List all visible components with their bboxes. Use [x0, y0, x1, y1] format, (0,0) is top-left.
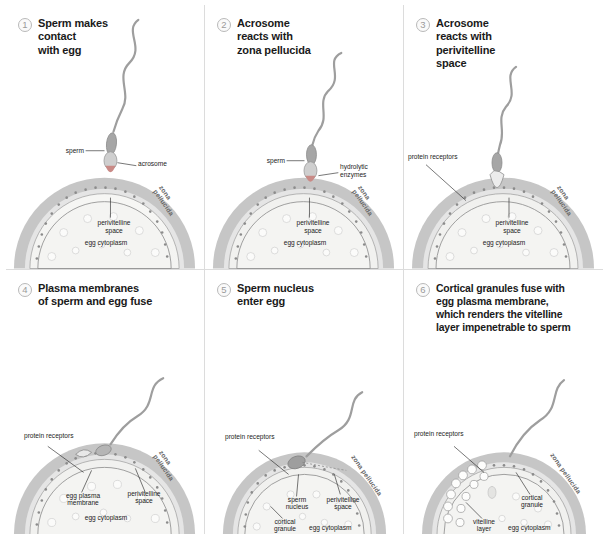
label-protein-receptors: protein receptors [24, 432, 98, 440]
panel-2-illustration: sperm hydrolytic enzymes zona pellucida … [205, 5, 403, 269]
sperm-figure [104, 20, 138, 172]
label-egg-cytoplasm: egg cytoplasm [68, 514, 144, 522]
label-egg-cytoplasm: egg cytoplasm [267, 239, 343, 247]
sperm-figure [490, 67, 516, 188]
label-sperm: sperm [245, 157, 285, 165]
label-protein-receptors: protein receptors [408, 153, 482, 161]
panel-step-2: 2 Acrosome reacts with zona pellucida [205, 5, 404, 270]
label-protein-receptors: protein receptors [414, 430, 488, 438]
panel-step-1: 1 Sperm makes contact with egg [6, 5, 205, 270]
label-sperm-nucleus: sperm nucleus [273, 496, 321, 511]
label-perivitelline-space: perivitelline space [287, 219, 339, 234]
fertilization-diagram: 1 Sperm makes contact with egg [0, 0, 609, 539]
label-hydrolytic-enzymes: hydrolytic enzymes [340, 163, 396, 178]
panel-step-3: 3 Acrosome reacts with perivitelline spa… [404, 5, 603, 270]
label-acrosome: acrosome [138, 160, 194, 168]
sperm-figure [510, 380, 564, 456]
label-perivitelline-space: perivitelline space [118, 490, 170, 505]
label-egg-cytoplasm: egg cytoplasm [508, 524, 584, 532]
egg-and-sperm-svg [205, 270, 403, 535]
label-egg-cytoplasm: egg cytoplasm [309, 524, 385, 532]
panel-3-illustration: protein receptors zona pellucida perivit… [404, 5, 603, 269]
panel-step-4: 4 Plasma membranes of sperm and egg fuse [6, 270, 205, 535]
panel-4-illustration: protein receptors egg plasma membrane zo… [6, 270, 204, 535]
label-egg-cytoplasm: egg cytoplasm [68, 239, 144, 247]
panel-step-6: 6 Cortical granules fuse with egg plasma… [404, 270, 603, 535]
label-perivitelline-space: perivitelline space [88, 219, 140, 234]
label-protein-receptors: protein receptors [225, 433, 299, 441]
label-sperm: sperm [44, 147, 84, 155]
panel-1-illustration: sperm acrosome zona pellucida perivitell… [6, 5, 204, 269]
label-egg-cytoplasm: egg cytoplasm [466, 239, 542, 247]
panel-grid: 1 Sperm makes contact with egg [6, 5, 603, 534]
label-perivitelline-space: perivitelline space [486, 219, 538, 234]
label-cortical-granule: cortical granule [263, 518, 307, 533]
label-perivitelline-space: perivitelline space [317, 496, 369, 511]
panel-step-5: 5 Sperm nucleus enter egg [205, 270, 404, 535]
label-vitelline-layer: vitelline layer [462, 518, 506, 533]
egg-and-sperm-svg [404, 270, 603, 535]
label-egg-plasma-membrane: egg plasma membrane [54, 492, 112, 507]
panel-5-illustration: protein receptors sperm nucleus zona pel… [205, 270, 403, 535]
label-cortical-granule: cortical granule [508, 494, 556, 509]
sperm-figure [304, 53, 341, 182]
panel-6-illustration: protein receptors zona pellucida cortica… [404, 270, 603, 535]
